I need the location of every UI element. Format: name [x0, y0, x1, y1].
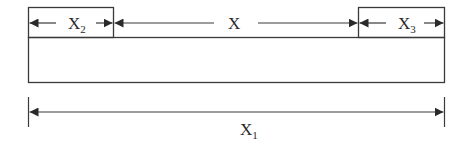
- main-bar: [29, 38, 445, 83]
- dimension-diagram: X2 X X3 X1: [0, 0, 466, 142]
- total-label: X1: [240, 120, 258, 141]
- left-segment-label: X2: [68, 14, 86, 35]
- middle-segment-label: X: [228, 14, 240, 33]
- right-segment-label: X3: [398, 14, 416, 35]
